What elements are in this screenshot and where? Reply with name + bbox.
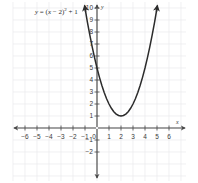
x-tick-label: −5 [33,133,41,140]
x-tick-label: 6 [167,133,171,140]
equation-label: y = (x − 2)2 + 1 [34,7,78,16]
y-tick-label: 1 [89,112,93,119]
curve-right-arrow [156,6,157,12]
coordinate-plane: y = (x − 2)2 + 1 y x −6 −5 −4 −3 −2 −1 0… [0,0,198,183]
x-tick-label: −2 [69,133,77,140]
x-axis-name: x [175,119,179,125]
y-tick-label: 8 [89,28,93,35]
y-tick-label: 4 [89,76,93,83]
y-tick-label: 2 [89,100,93,107]
x-tick-label: 1 [107,133,111,140]
y-tick-label: 3 [89,88,93,95]
y-tick-label: 5 [89,64,93,71]
equation-k: 1 [74,8,78,16]
y-tick-label: 9 [89,16,93,23]
x-tick-label: −4 [45,133,53,140]
y-tick-label: 6 [89,52,93,59]
x-tick-label: 5 [155,133,159,140]
x-tick-label: 3 [131,133,135,140]
x-tick-label: 4 [143,133,147,140]
x-tick-label: −3 [57,133,65,140]
x-tick-label: 2 [119,133,123,140]
y-axis-name: y [100,4,104,10]
figure-background [0,0,198,183]
y-tick-label: −2 [86,148,94,155]
x-tick-label: −6 [21,133,29,140]
y-tick-label: 10 [86,4,94,11]
y-tick-label: 7 [89,40,93,47]
graph-figure: y = (x − 2)2 + 1 y x −6 −5 −4 −3 −2 −1 0… [0,0,198,183]
y-tick-label: −1 [86,136,94,143]
